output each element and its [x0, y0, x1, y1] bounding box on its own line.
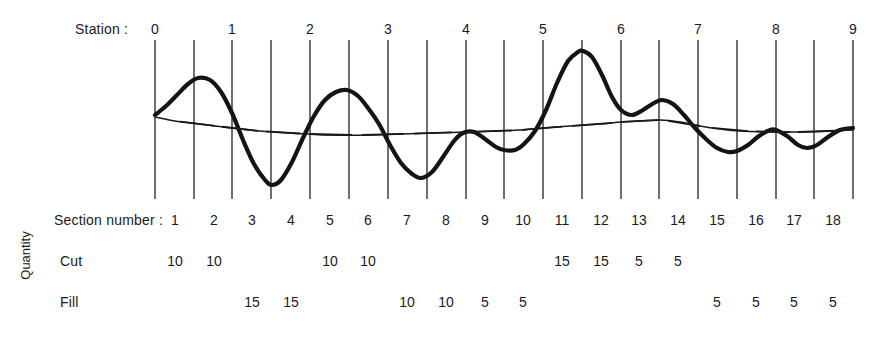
cut-value-section-14: 5: [674, 254, 682, 268]
fill-row-label: Fill: [60, 295, 79, 309]
mass-haul-diagram: Station : 0123456789 Section number : 12…: [0, 0, 883, 339]
section-number-11: 11: [555, 213, 570, 227]
section-number-6: 6: [364, 213, 372, 227]
section-number-3: 3: [248, 213, 256, 227]
fill-value-section-7: 10: [399, 295, 415, 309]
section-number-4: 4: [287, 213, 295, 227]
fill-value-section-3: 15: [244, 295, 260, 309]
balance-dash-13: [798, 131, 836, 132]
balance-dash-9: [622, 120, 658, 122]
section-number-16: 16: [748, 213, 764, 227]
balance-dash-10: [668, 121, 700, 126]
cut-value-section-13: 5: [635, 254, 643, 268]
fill-value-section-18: 5: [829, 295, 837, 309]
balance-dash-3: [310, 134, 352, 135]
fill-value-section-15: 5: [713, 295, 721, 309]
balance-dash-6: [470, 130, 512, 131]
fill-value-section-9: 5: [481, 295, 489, 309]
cut-value-section-6: 10: [360, 254, 376, 268]
balance-dash-7: [522, 127, 562, 130]
fill-value-section-8: 10: [438, 295, 454, 309]
section-number-2: 2: [210, 213, 218, 227]
cut-value-section-1: 10: [167, 254, 183, 268]
section-number-8: 8: [442, 213, 450, 227]
balance-dash-8: [572, 123, 612, 126]
section-number-15: 15: [709, 213, 725, 227]
section-number-7: 7: [403, 213, 411, 227]
section-number-13: 13: [631, 213, 647, 227]
balance-dash-0: [180, 122, 215, 126]
fill-value-section-16: 5: [752, 295, 760, 309]
cut-value-section-12: 15: [593, 254, 609, 268]
section-number-12: 12: [593, 213, 609, 227]
cut-value-section-2: 10: [206, 254, 222, 268]
section-number-10: 10: [515, 213, 531, 227]
section-number-5: 5: [326, 213, 334, 227]
cut-value-section-11: 15: [554, 254, 570, 268]
cut-value-section-5: 10: [322, 254, 338, 268]
section-number-14: 14: [670, 213, 686, 227]
balance-dash-5: [414, 132, 452, 133]
quantity-axis-label: Quantity: [18, 213, 33, 299]
fill-value-section-17: 5: [790, 295, 798, 309]
section-row-label: Section number :: [54, 213, 163, 227]
balance-dash-12: [756, 131, 790, 132]
cut-row-label: Cut: [60, 254, 82, 268]
section-number-1: 1: [171, 213, 179, 227]
section-number-18: 18: [825, 213, 841, 227]
fill-value-section-4: 15: [283, 295, 299, 309]
balance-dash-4: [362, 134, 404, 135]
section-number-9: 9: [481, 213, 489, 227]
mass-haul-plot: [0, 0, 883, 339]
fill-value-section-10: 5: [519, 295, 527, 309]
section-number-17: 17: [786, 213, 802, 227]
